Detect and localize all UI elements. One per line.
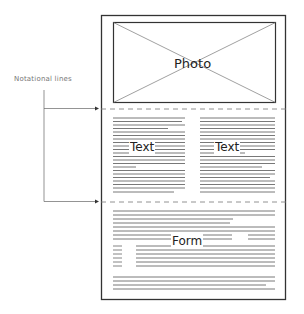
photo-label: Photo: [174, 56, 211, 71]
text-left-label: Text: [129, 140, 155, 154]
text-right-label: Text: [214, 140, 240, 154]
arrow-head-icon: [95, 107, 99, 111]
annotation-connector: [44, 90, 96, 202]
form-label: Form: [171, 234, 203, 248]
arrow-head-icon: [95, 200, 99, 204]
annotation-label: Notational lines: [14, 75, 72, 83]
page-layout-diagram: [0, 0, 304, 314]
